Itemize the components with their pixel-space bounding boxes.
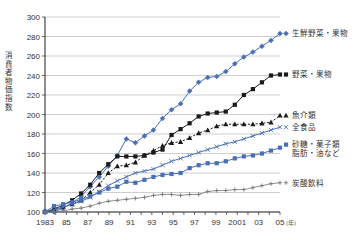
data-point — [188, 192, 192, 196]
x-tick-label: 91 — [126, 218, 135, 227]
data-point — [160, 192, 164, 196]
data-point — [242, 154, 246, 158]
data-point — [169, 172, 173, 176]
data-point — [269, 148, 273, 152]
data-point — [260, 151, 264, 155]
data-point — [124, 175, 128, 179]
data-point — [251, 186, 255, 190]
data-point — [269, 73, 273, 77]
data-point — [115, 179, 119, 183]
x-axis-unit: (年) — [286, 219, 296, 227]
data-point — [169, 133, 173, 137]
x-tick-label: 03 — [254, 218, 263, 227]
legend-label: 野菜・果物 — [292, 69, 332, 79]
data-point — [133, 154, 137, 158]
data-point — [259, 44, 264, 49]
legend-label: 炭酸飲料 — [292, 178, 324, 188]
data-point — [133, 181, 137, 185]
data-point — [124, 197, 128, 201]
x-tick-label: 2001 — [228, 218, 246, 227]
data-point — [178, 139, 183, 144]
line-chart: 1001201401601802002202402602803001983858… — [0, 0, 363, 240]
data-point — [251, 153, 255, 157]
data-point — [205, 127, 210, 132]
y-axis-title: 消費者物価指数 — [2, 52, 14, 112]
y-tick-label: 140 — [27, 169, 41, 178]
data-point — [106, 199, 110, 203]
data-point — [178, 171, 182, 175]
data-point — [160, 163, 164, 167]
data-point — [251, 87, 255, 91]
data-point — [160, 148, 164, 152]
data-point — [160, 173, 164, 177]
data-point — [224, 188, 228, 192]
data-point — [224, 109, 228, 113]
data-point — [133, 160, 138, 165]
data-point — [124, 154, 128, 158]
data-point — [115, 185, 119, 189]
data-point — [187, 135, 192, 140]
y-tick-label: 220 — [27, 91, 41, 100]
data-point — [151, 148, 156, 153]
y-tick-label: 240 — [27, 72, 41, 81]
data-point — [115, 198, 119, 202]
y-tick-label: 160 — [27, 150, 41, 159]
data-point — [88, 204, 92, 208]
data-point — [206, 161, 210, 165]
data-point — [278, 72, 282, 76]
x-tick-label: 87 — [83, 218, 92, 227]
y-tick-label: 120 — [27, 189, 41, 198]
data-point — [233, 103, 237, 107]
data-point — [133, 196, 137, 200]
data-point — [178, 127, 182, 131]
chart-container: 消費者物価指数 10012014016018020022024026028030… — [0, 0, 363, 240]
x-tick-label: 95 — [169, 218, 178, 227]
data-point — [215, 110, 219, 114]
data-point — [88, 194, 92, 198]
data-point — [233, 187, 237, 191]
data-point — [88, 183, 92, 187]
y-tick-label: 180 — [27, 130, 41, 139]
data-point — [115, 163, 120, 168]
data-point — [169, 192, 173, 196]
x-tick-label: 85 — [62, 218, 71, 227]
data-point — [124, 136, 129, 141]
data-point — [283, 113, 288, 118]
legend-label: 魚介類 — [292, 110, 316, 120]
data-point — [115, 154, 119, 158]
data-point — [260, 184, 264, 188]
series-line — [45, 34, 280, 212]
y-tick-label: 260 — [27, 52, 41, 61]
x-tick-label: 93 — [147, 218, 156, 227]
data-point — [52, 204, 56, 208]
data-point — [233, 156, 237, 160]
data-point — [79, 191, 83, 195]
data-point — [214, 74, 219, 79]
y-tick-label: 100 — [27, 208, 41, 217]
data-point — [188, 121, 192, 125]
data-point — [284, 72, 288, 76]
data-point — [188, 166, 192, 170]
data-point — [269, 182, 273, 186]
x-tick-label: 97 — [190, 218, 199, 227]
data-point — [284, 125, 288, 129]
data-point — [124, 180, 128, 184]
data-point — [106, 187, 110, 191]
data-point — [223, 122, 228, 127]
x-tick-label: 99 — [211, 218, 220, 227]
data-point — [215, 161, 219, 165]
data-point — [224, 159, 228, 163]
data-point — [268, 120, 273, 125]
data-point — [97, 201, 101, 205]
data-point — [197, 163, 201, 167]
data-point — [260, 80, 264, 84]
data-point — [278, 181, 282, 185]
data-point — [278, 146, 282, 150]
data-point — [206, 189, 210, 193]
x-tick-label: 05 — [276, 218, 285, 227]
data-point — [250, 122, 255, 127]
data-point — [79, 197, 83, 201]
data-point — [206, 111, 210, 115]
legend-label: 砂糖・菓子類 — [292, 139, 340, 149]
data-point — [178, 193, 182, 197]
